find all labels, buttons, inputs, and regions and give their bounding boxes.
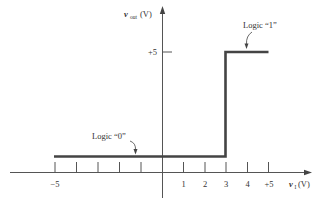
logic-0-label: Logic “0” [92,131,126,141]
x-tick-label-1: 1 [181,179,185,189]
x-axis-label: v I (V) [289,179,310,190]
x-tick-label-4: 4 [245,179,250,189]
x-ticks [55,162,269,173]
x-axis-arrow-icon [304,170,312,175]
y-tick-label-5: +5 [148,47,157,57]
y-axis-label: v out (V) [124,9,152,20]
y-axis-label-var: v [124,9,128,19]
y-axis-arrow-icon [160,6,165,14]
logic-1-label: Logic “1” [243,20,277,30]
x-axis-label-sub: I [295,184,297,190]
x-axis-label-var: v [289,179,293,189]
logic-0-arrowhead-icon [134,149,138,155]
x-tick-label-5: +5 [264,179,273,189]
y-axis-label-sub: out [130,14,138,20]
logic-1-arrowhead-icon [245,44,249,50]
x-tick-label-m5: −5 [50,179,59,189]
x-axis-label-unit: (V) [298,179,310,189]
annotation-logic-0: Logic “0” [92,131,138,155]
y-axis-label-unit: (V) [140,9,152,19]
logic-1-arrow [246,32,252,44]
x-tick-label-3: 3 [224,179,228,189]
logic-0-arrow [130,141,136,150]
transfer-trace [54,52,269,157]
annotation-logic-1: Logic “1” [243,20,277,49]
x-tick-label-2: 2 [203,179,207,189]
chart-svg: −5 1 2 3 4 +5 +5 v out (V) v I (V) Logic… [0,0,320,204]
transfer-characteristic-chart: −5 1 2 3 4 +5 +5 v out (V) v I (V) Logic… [0,0,320,204]
